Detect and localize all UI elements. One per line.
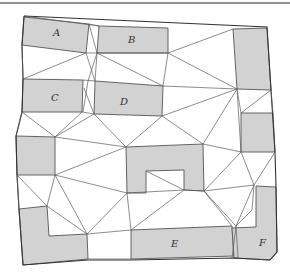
room-right-mid (241, 113, 275, 152)
triangulation-diagram: A B C D E F (0, 0, 290, 278)
room-label-d: D (119, 96, 128, 107)
room-right-top (233, 28, 271, 90)
room-label-f: F (258, 237, 267, 248)
room-label-a: A (52, 27, 60, 38)
diagram-canvas: A B C D E F (0, 0, 290, 278)
room-label-e: E (170, 238, 179, 249)
room-left-mid (16, 136, 55, 175)
room-label-b: B (127, 34, 135, 45)
room-e (131, 226, 234, 259)
room-u-shape (126, 144, 204, 193)
room-label-c: C (51, 92, 59, 103)
room-d (94, 81, 163, 116)
room-bottom-left (19, 206, 88, 265)
